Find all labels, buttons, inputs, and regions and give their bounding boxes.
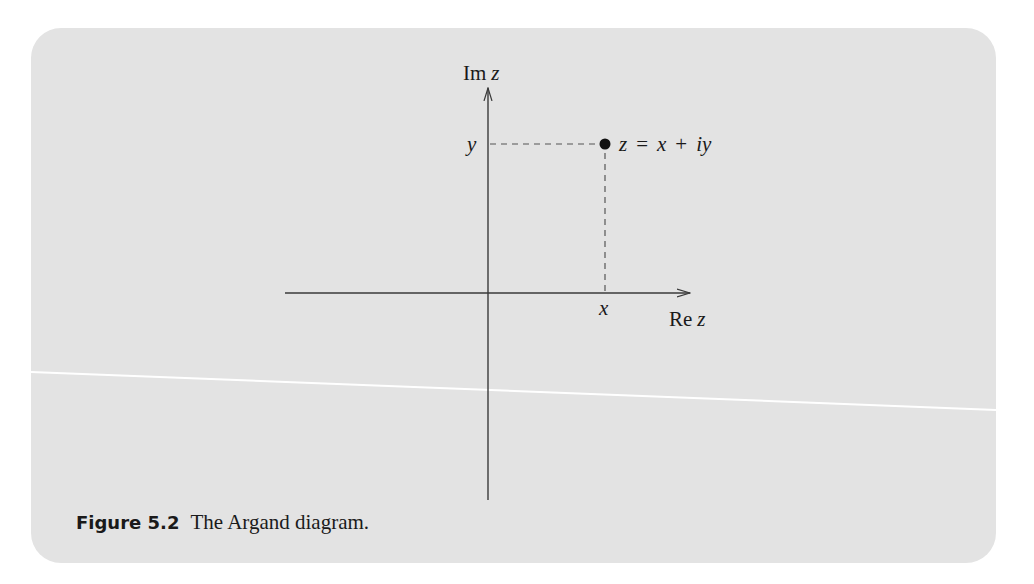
y-coordinate-label: y	[465, 132, 477, 156]
imaginary-axis-label: Imz	[463, 61, 500, 85]
argand-diagram: Imz Rez y x z=x+iy	[0, 0, 1034, 584]
caption-text: The Argand diagram.	[190, 510, 369, 534]
x-coordinate-label: x	[598, 296, 609, 320]
real-axis-label: Rez	[669, 307, 706, 331]
figure-number: Figure 5.2	[76, 512, 179, 533]
scan-line	[31, 372, 996, 410]
point-z	[600, 139, 611, 150]
figure-caption: Figure 5.2 The Argand diagram.	[76, 510, 369, 535]
point-equation: z=x+iy	[618, 132, 712, 156]
